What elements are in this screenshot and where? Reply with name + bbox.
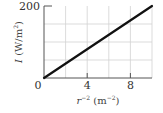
y-axis-label: I (W/m2) [12,21,24,64]
origin-tick: 0 [35,79,42,92]
x-tick-8: 8 [127,79,134,92]
x-axis-label: r−2 (m−2) [77,91,120,106]
chart: 200 0 4 8 I (W/m2) r−2 (m−2) [0,0,163,113]
y-tick-200: 200 [19,0,40,13]
